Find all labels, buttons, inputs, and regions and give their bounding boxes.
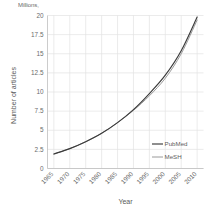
svg-text:2000: 2000 (151, 170, 166, 185)
x-tick-labels: 1965197019751980198519901995200020052010 (40, 170, 199, 185)
x-axis-title: Year (48, 198, 203, 205)
svg-text:1965: 1965 (40, 170, 55, 185)
svg-text:17.5: 17.5 (31, 31, 44, 38)
svg-text:10: 10 (36, 88, 44, 95)
svg-text:2005: 2005 (167, 170, 182, 185)
svg-text:0: 0 (40, 165, 44, 172)
y-tick-labels: 02.557.51012.51517.520 (31, 12, 44, 172)
chart-legend: PubMedMeSH (152, 140, 188, 160)
svg-text:15: 15 (36, 50, 44, 57)
series-lines (54, 17, 197, 154)
svg-text:5: 5 (40, 126, 44, 133)
svg-text:2.5: 2.5 (35, 146, 44, 153)
legend-label-pubmed: PubMed (165, 140, 189, 147)
svg-text:1995: 1995 (135, 170, 150, 185)
chart-figure: Millions, Number of articles 02.557.5101… (0, 0, 211, 214)
svg-text:12.5: 12.5 (31, 69, 44, 76)
svg-text:1985: 1985 (103, 170, 118, 185)
svg-text:7.5: 7.5 (35, 107, 44, 114)
svg-text:2010: 2010 (183, 170, 198, 185)
plot-area: 02.557.51012.51517.520 19651970197519801… (0, 0, 211, 214)
svg-text:1970: 1970 (55, 170, 70, 185)
legend-label-mesh: MeSH (165, 153, 182, 160)
svg-text:1980: 1980 (87, 170, 102, 185)
svg-text:1990: 1990 (119, 170, 134, 185)
svg-text:20: 20 (36, 12, 44, 19)
svg-text:1975: 1975 (71, 170, 86, 185)
